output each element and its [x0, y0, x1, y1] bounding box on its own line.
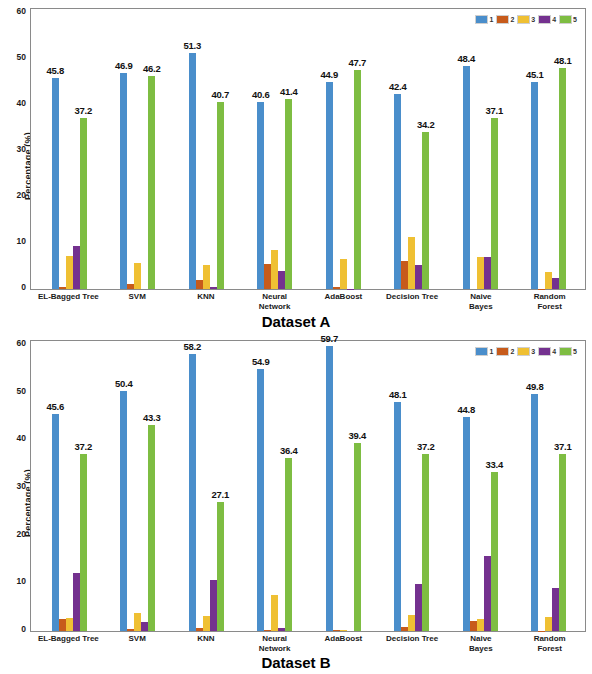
bar-series-3 [66, 256, 73, 289]
bar-group: 44.947.7 [309, 13, 378, 289]
bar-value-label: 37.1 [554, 441, 572, 452]
bar-group: 48.137.2 [378, 345, 447, 631]
bar-series-3 [477, 257, 484, 289]
bar-value-label: 42.4 [389, 81, 407, 92]
x-axis-tick-label: Decision Tree [378, 292, 447, 312]
bar-group: 45.148.1 [515, 13, 584, 289]
bar-series-5: 47.7 [354, 70, 361, 289]
bar-series-3 [134, 613, 141, 631]
x-axis-labels-b: EL-Bagged TreeSVMKNNNeuralNetworkAdaBoos… [34, 634, 584, 654]
bar-group: 50.443.3 [104, 345, 173, 631]
x-axis-tick-label: RandomForest [515, 292, 584, 312]
x-axis-tick-label: SVM [103, 292, 172, 312]
bar-value-label: 39.4 [348, 430, 366, 441]
bar-series-4 [484, 556, 491, 631]
bar-series-5: 41.4 [285, 99, 292, 289]
bar-value-label: 41.4 [280, 86, 298, 97]
bar-group: 45.637.2 [35, 345, 104, 631]
bar-group: 59.739.4 [309, 345, 378, 631]
bar-series-5: 39.4 [354, 443, 361, 631]
bar-group: 45.837.2 [35, 13, 104, 289]
bar-series-4 [278, 628, 285, 631]
x-axis-tick-label: NeuralNetwork [240, 292, 309, 312]
bar-series-1: 45.6 [52, 414, 59, 631]
bar-group: 46.946.2 [104, 13, 173, 289]
bar-series-2 [196, 628, 203, 631]
bar-series-5: 27.1 [217, 502, 224, 631]
bar-value-label: 27.1 [211, 489, 229, 500]
bar-group: 54.936.4 [241, 345, 310, 631]
bar-value-label: 49.8 [526, 381, 544, 392]
bar-value-label: 44.8 [457, 404, 475, 415]
bar-series-4 [73, 246, 80, 289]
bar-series-3 [545, 272, 552, 289]
bar-series-1: 58.2 [189, 354, 196, 631]
plot-frame-a: 12345 45.837.246.946.251.340.740.641.444… [30, 8, 586, 290]
bar-series-4 [141, 622, 148, 631]
bar-series-5: 43.3 [148, 425, 155, 631]
bar-value-label: 43.3 [143, 412, 161, 423]
bar-series-5: 33.4 [491, 472, 498, 631]
bar-series-1: 49.8 [531, 394, 538, 631]
bar-series-5: 37.1 [559, 454, 566, 631]
bar-series-3 [66, 618, 73, 631]
bar-series-2 [333, 630, 340, 631]
plot-frame-b: 12345 45.637.250.443.358.227.154.936.459… [30, 340, 586, 632]
bar-series-4 [415, 584, 422, 631]
bar-series-1: 48.1 [394, 402, 401, 631]
bar-value-label: 46.2 [143, 63, 161, 74]
bar-series-1: 44.8 [463, 417, 470, 631]
bar-series-4 [552, 588, 559, 631]
bar-group: 42.434.2 [378, 13, 447, 289]
y-axis-tick-label: 60 [0, 338, 26, 348]
bar-group: 40.641.4 [241, 13, 310, 289]
bar-series-2 [59, 287, 66, 289]
x-axis-tick-label: SVM [103, 634, 172, 654]
bar-value-label: 34.2 [417, 119, 435, 130]
figure-container: Percentage (%) 0102030405060 12345 45.83… [0, 0, 592, 674]
bar-group: 49.837.1 [515, 345, 584, 631]
bar-series-1: 45.8 [52, 78, 59, 289]
y-axis-tick-label: 60 [0, 6, 26, 16]
bar-value-label: 48.1 [389, 389, 407, 400]
bar-series-3 [545, 617, 552, 631]
chart-title-dataset-b: Dataset B [0, 654, 592, 671]
bar-value-label: 45.6 [46, 401, 64, 412]
x-axis-tick-label: NaiveBayes [447, 634, 516, 654]
chart-title-dataset-a: Dataset A [0, 313, 592, 330]
x-axis-tick-label: AdaBoost [309, 634, 378, 654]
bar-series-2 [59, 619, 66, 631]
bar-series-3 [203, 616, 210, 631]
bar-series-3 [340, 630, 347, 631]
bar-series-4 [73, 573, 80, 631]
bar-series-2 [401, 627, 408, 631]
bar-series-5: 37.2 [80, 454, 87, 631]
y-axis-tick-label: 30 [0, 144, 26, 154]
x-axis-tick-label: AdaBoost [309, 292, 378, 312]
bar-series-2 [127, 629, 134, 631]
x-axis-tick-label: EL-Bagged Tree [34, 634, 103, 654]
bar-series-4 [278, 271, 285, 289]
bar-series-1: 48.4 [463, 66, 470, 289]
y-axis-tick-label: 50 [0, 52, 26, 62]
bar-series-3 [477, 619, 484, 631]
bar-group: 44.833.4 [446, 345, 515, 631]
bar-series-3 [340, 259, 347, 289]
bar-series-3 [134, 263, 141, 289]
bar-series-1: 40.6 [257, 102, 264, 289]
bar-group: 48.437.1 [446, 13, 515, 289]
x-axis-tick-label: Decision Tree [378, 634, 447, 654]
bar-series-4 [210, 287, 217, 289]
x-axis-labels-a: EL-Bagged TreeSVMKNNNeuralNetworkAdaBoos… [34, 292, 584, 312]
bar-series-5: 36.4 [285, 458, 292, 632]
chart-panel-dataset-a: Percentage (%) 0102030405060 12345 45.83… [0, 0, 592, 332]
bar-series-5: 46.2 [148, 76, 155, 289]
bar-value-label: 44.9 [320, 69, 338, 80]
bar-series-4 [210, 580, 217, 631]
bar-series-3 [271, 250, 278, 289]
bar-value-label: 48.1 [554, 55, 572, 66]
bar-series-4 [415, 265, 422, 289]
x-axis-tick-label: EL-Bagged Tree [34, 292, 103, 312]
bar-series-2 [264, 630, 271, 631]
y-axis-tick-label: 30 [0, 481, 26, 491]
